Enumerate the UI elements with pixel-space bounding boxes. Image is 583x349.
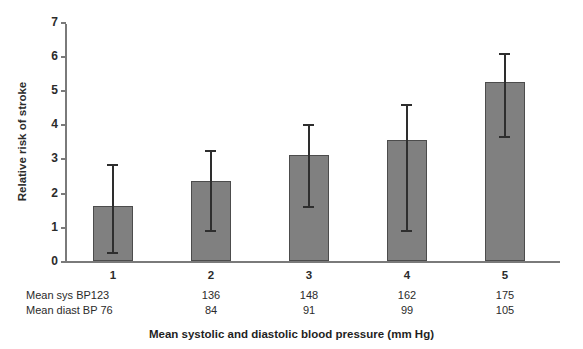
y-tick-mark (61, 90, 66, 92)
error-bar-4 (406, 104, 408, 232)
error-cap-bottom (107, 252, 118, 254)
y-tick-label: 5 (51, 84, 58, 96)
group-label-5: 5 (502, 268, 508, 282)
error-cap-bottom (205, 230, 216, 232)
plot-area: 0 1 2 3 4 5 6 7 (65, 20, 560, 263)
y-tick-mark (61, 227, 66, 229)
error-cap-bottom (499, 136, 510, 138)
error-cap-top (401, 104, 412, 106)
group-label-3: 3 (306, 268, 312, 282)
sys-value-5: 175 (496, 288, 514, 302)
sys-value-3: 148 (300, 288, 318, 302)
chart-figure: Relative risk of stroke 0 1 2 3 4 5 (0, 0, 583, 349)
y-tick-label: 3 (51, 152, 58, 164)
diast-value-4: 99 (401, 303, 413, 317)
y-axis-title: Relative risk of stroke (13, 20, 31, 263)
row-header-mean-diast-bp: Mean diast BP 76 (26, 303, 113, 317)
group-label-2: 2 (208, 268, 214, 282)
group-label-1: 1 (110, 268, 116, 282)
y-tick-mark (61, 56, 66, 58)
x-axis-line (65, 261, 560, 263)
y-tick-mark (61, 22, 66, 24)
y-tick-mark (61, 261, 66, 263)
error-bar-5 (504, 53, 506, 138)
y-tick-mark (61, 193, 66, 195)
error-cap-top (205, 150, 216, 152)
y-tick-label: 0 (51, 255, 58, 267)
sys-value-4: 162 (398, 288, 416, 302)
y-tick-label: 1 (51, 221, 58, 233)
diast-value-2: 84 (205, 303, 217, 317)
y-tick-mark (61, 158, 66, 160)
error-cap-bottom (303, 206, 314, 208)
diast-value-5: 105 (496, 303, 514, 317)
x-axis-title: Mean systolic and diastolic blood pressu… (0, 328, 583, 340)
error-cap-top (499, 53, 510, 55)
y-tick-label: 2 (51, 187, 58, 199)
y-tick-mark (61, 124, 66, 126)
row-header-mean-sys-bp: Mean sys BP123 (26, 288, 109, 302)
y-tick-label: 4 (51, 118, 58, 130)
error-cap-top (303, 124, 314, 126)
error-bar-2 (210, 150, 212, 232)
y-tick-label: 7 (51, 16, 58, 28)
group-label-4: 4 (404, 268, 410, 282)
error-cap-bottom (401, 230, 412, 232)
y-tick-label: 6 (51, 50, 58, 62)
error-bar-3 (308, 124, 310, 208)
sys-value-2: 136 (202, 288, 220, 302)
diast-value-3: 91 (303, 303, 315, 317)
error-bar-1 (112, 164, 114, 254)
error-cap-top (107, 164, 118, 166)
